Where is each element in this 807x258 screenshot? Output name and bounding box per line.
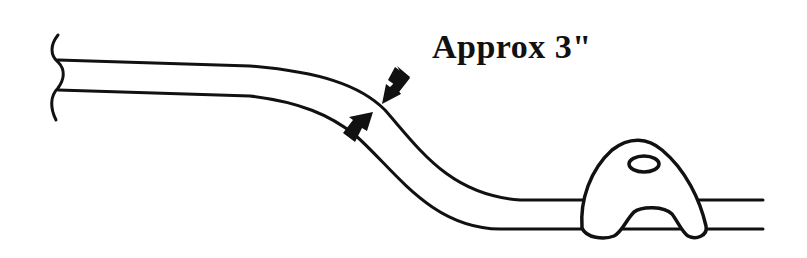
clip-icon [582, 140, 706, 238]
break-mark [52, 35, 64, 120]
diagram-canvas [0, 0, 807, 258]
arrow-upper-icon [382, 66, 410, 104]
measurement-label: Approx 3" [432, 28, 592, 66]
